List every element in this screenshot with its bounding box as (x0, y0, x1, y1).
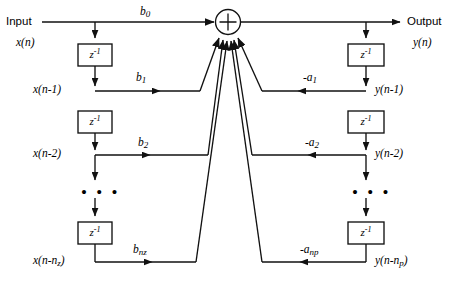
xnnz-base: x(n-n (33, 254, 57, 266)
ff-tap-b2-diag (208, 40, 223, 155)
coef-subscript: nz (139, 247, 147, 257)
coef-label-bnz: bnz (133, 244, 147, 257)
z-exponent: -1 (365, 114, 372, 123)
coef-base: -a (303, 71, 313, 83)
ff-tap-b1-diag (200, 38, 219, 91)
coef-label-b2: b2 (138, 137, 148, 150)
coef-subscript: 2 (144, 140, 148, 150)
ff-delay-label-1: z-1 (78, 48, 112, 60)
fb-signal-label-yn2: y(n-2) (375, 148, 403, 160)
coef-base: -a (305, 136, 315, 148)
coef-label-b0: b0 (140, 6, 150, 19)
fb-tap-a2-diag (234, 40, 252, 155)
filter-block-diagram: Input x(n) Output y(n) z-1 z-1 z-1 z-1 z… (0, 0, 461, 286)
fb-signal-label-yn1: y(n-1) (375, 84, 403, 96)
ff-signal-label-xnnz: x(n-nz) (33, 255, 65, 268)
input-label: Input (6, 16, 32, 28)
coef-subscript: 0 (146, 9, 150, 19)
xnnz-close: ) (61, 254, 65, 266)
fb-delay-label-1: z-1 (348, 48, 384, 60)
coef-label-anp: -anp (300, 244, 319, 257)
coef-base: -a (300, 243, 310, 255)
z-exponent: -1 (365, 47, 372, 56)
output-signal-label: y(n) (413, 37, 432, 49)
coef-label-b1: b1 (136, 72, 146, 85)
coef-label-a1: -a1 (303, 72, 317, 85)
ynnp-base: y(n-n (375, 254, 399, 266)
ff-tap-bnz-diag (196, 41, 227, 262)
fb-delay-label-3: z-1 (348, 226, 384, 238)
fb-tap-anp-diag (231, 41, 262, 262)
output-label: Output (407, 16, 442, 28)
fb-signal-label-ynnp: y(n-np) (375, 255, 408, 268)
z-exponent: -1 (365, 225, 372, 234)
coef-subscript: 1 (142, 75, 146, 85)
ff-signal-label-xn2: x(n-2) (33, 148, 61, 160)
z-exponent: -1 (94, 114, 101, 123)
ff-signal-label-xn1: x(n-1) (33, 84, 61, 96)
ff-delay-label-3: z-1 (78, 226, 112, 238)
ff-ellipsis: • • • (81, 184, 120, 201)
z-exponent: -1 (94, 47, 101, 56)
fb-ellipsis: • • • (352, 184, 391, 201)
coef-subscript: np (310, 247, 319, 257)
input-signal-label: x(n) (16, 37, 35, 49)
coef-subscript: 2 (315, 140, 319, 150)
ynnp-close: ) (404, 254, 408, 266)
diagram-canvas (0, 0, 461, 286)
fb-delay-label-2: z-1 (348, 115, 384, 127)
coef-label-a2: -a2 (305, 137, 319, 150)
coef-subscript: 1 (313, 75, 317, 85)
fb-tap-a1-diag (238, 38, 262, 91)
ff-delay-label-2: z-1 (78, 115, 112, 127)
z-exponent: -1 (94, 225, 101, 234)
